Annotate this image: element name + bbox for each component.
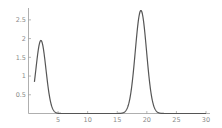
data-curve bbox=[34, 11, 206, 114]
x-ticks: 51015202530 bbox=[56, 111, 210, 124]
x-tick-label: 15 bbox=[113, 116, 121, 124]
x-tick-label: 25 bbox=[172, 116, 180, 124]
x-tick-label: 30 bbox=[202, 116, 210, 124]
x-tick-label: 10 bbox=[84, 116, 92, 124]
x-tick-label: 20 bbox=[143, 116, 151, 124]
y-tick-label: 2.5 bbox=[16, 16, 26, 24]
y-tick-label: 1.5 bbox=[16, 54, 26, 62]
x-tick-label: 5 bbox=[56, 116, 60, 124]
y-tick-label: 1 bbox=[22, 72, 26, 80]
y-tick-label: 0.5 bbox=[16, 91, 26, 99]
line-chart: 0.511.522.5 51015202530 bbox=[0, 0, 222, 128]
y-tick-label: 2 bbox=[22, 35, 26, 43]
